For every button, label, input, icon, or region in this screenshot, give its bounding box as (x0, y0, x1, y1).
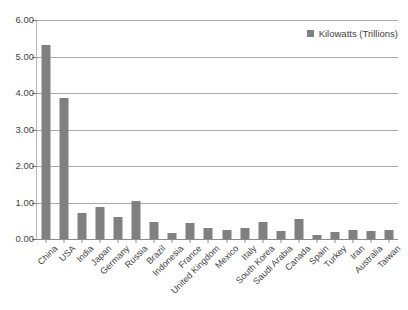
y-axis-tick-label: 3.00 (0, 125, 34, 135)
x-axis-tick-mark (118, 239, 119, 243)
bar[interactable] (132, 201, 141, 239)
x-axis-tick-mark (370, 239, 371, 243)
bar-slot (145, 20, 163, 239)
y-axis-tick-label: 2.00 (0, 161, 34, 171)
bar[interactable] (294, 219, 303, 239)
bar[interactable] (114, 217, 123, 239)
bar-slot (91, 20, 109, 239)
x-axis-tick-mark (46, 239, 47, 243)
x-axis-tick-mark (64, 239, 65, 243)
legend-label: Kilowatts (Trillions) (319, 28, 398, 39)
bar[interactable] (258, 222, 267, 239)
bar-slot (109, 20, 127, 239)
bar[interactable] (60, 98, 69, 239)
x-axis-tick-mark (262, 239, 263, 243)
x-axis-tick-mark (136, 239, 137, 243)
bar[interactable] (78, 213, 87, 239)
bar-slot (181, 20, 199, 239)
x-axis-labels: ChinaUSAIndiaJapanGermanyRussiaBrazilInd… (36, 244, 398, 308)
x-axis-tick-mark (190, 239, 191, 243)
bar[interactable] (384, 230, 393, 239)
bar-slot (254, 20, 272, 239)
x-axis-tick-mark (244, 239, 245, 243)
bar[interactable] (348, 230, 357, 239)
y-axis-tick-label: 0.00 (0, 234, 34, 244)
y-axis-tick-label: 4.00 (0, 88, 34, 98)
bar[interactable] (366, 231, 375, 239)
bar-slot (218, 20, 236, 239)
bar-slot (37, 20, 55, 239)
bar-chart: 0.001.002.003.004.005.006.00 ChinaUSAInd… (0, 0, 408, 310)
bar-slot (344, 20, 362, 239)
x-axis-tick-mark (280, 239, 281, 243)
bar[interactable] (150, 222, 159, 239)
x-axis-tick-mark (172, 239, 173, 243)
bar-slot (308, 20, 326, 239)
x-axis-tick-mark (154, 239, 155, 243)
bars-layer (37, 20, 398, 239)
bar-slot (73, 20, 91, 239)
x-axis-tick-mark (388, 239, 389, 243)
y-axis-tick-label: 5.00 (0, 52, 34, 62)
bar[interactable] (204, 228, 213, 239)
bar-slot (163, 20, 181, 239)
bar[interactable] (240, 228, 249, 239)
x-axis-tick-mark (298, 239, 299, 243)
bar-slot (55, 20, 73, 239)
y-axis-tick-label: 1.00 (0, 198, 34, 208)
bar-slot (199, 20, 217, 239)
legend-swatch-icon (307, 30, 314, 37)
x-axis-tick-mark (208, 239, 209, 243)
x-axis-tick-mark (100, 239, 101, 243)
y-axis-tick-label: 6.00 (0, 15, 34, 25)
bar-slot (127, 20, 145, 239)
x-axis-tick-mark (226, 239, 227, 243)
bar[interactable] (42, 45, 51, 239)
bar[interactable] (330, 232, 339, 239)
x-axis-label: China (36, 244, 59, 267)
bar-slot (362, 20, 380, 239)
bar-slot (380, 20, 398, 239)
x-axis-tick-mark (316, 239, 317, 243)
bar[interactable] (222, 230, 231, 239)
bar[interactable] (96, 207, 105, 239)
bar[interactable] (276, 231, 285, 239)
plot-area (36, 20, 398, 240)
bar-slot (326, 20, 344, 239)
bar-slot (272, 20, 290, 239)
bar-slot (236, 20, 254, 239)
x-axis-tick-mark (352, 239, 353, 243)
x-axis-tick-mark (82, 239, 83, 243)
x-axis-label: USA (58, 244, 77, 263)
legend: Kilowatts (Trillions) (307, 28, 398, 39)
x-axis-tick-mark (334, 239, 335, 243)
bar[interactable] (186, 223, 195, 239)
bar-slot (290, 20, 308, 239)
